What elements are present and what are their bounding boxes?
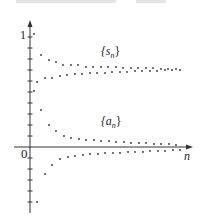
series-label-a-main: {a [101,114,112,128]
series-label-s-n: {sn} [101,45,120,60]
y-tick-label-one: 1 [20,29,26,41]
x-axis-label: n [184,150,190,162]
series-label-a-n: {an} [101,115,122,130]
origin-label: 0 [21,147,28,160]
sequence-plot [0,0,201,217]
series-label-a-close: } [116,114,122,128]
series-label-s-close: } [114,44,120,58]
